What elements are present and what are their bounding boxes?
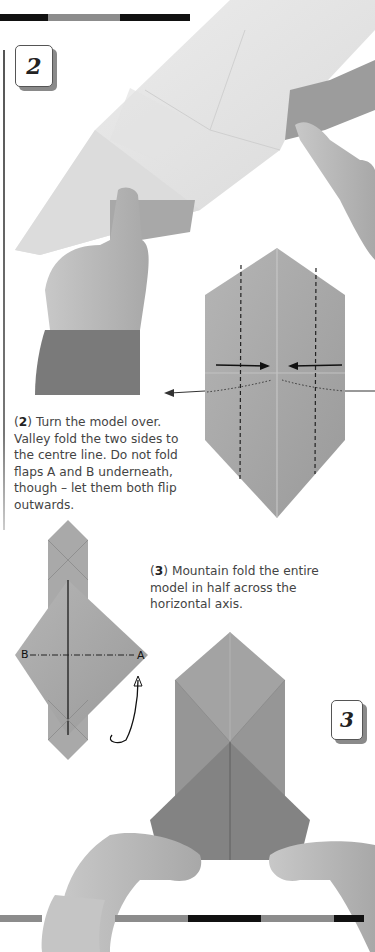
step-3-number: 3 xyxy=(340,708,354,732)
step3-diagram xyxy=(15,520,148,760)
step-2-caption-text: Turn the model over. Valley fold the two… xyxy=(14,415,178,512)
step-2-number: 2 xyxy=(26,53,41,79)
step-3-caption: (3) Mountain fold the entire model in ha… xyxy=(150,563,320,613)
flap-a-label: A xyxy=(137,649,145,662)
step2-photo-paper xyxy=(15,0,375,255)
flap-b-label: B xyxy=(21,648,29,661)
step-2-badge: 2 xyxy=(15,45,53,87)
step-2-caption: (2) Turn the model over. Valley fold the… xyxy=(14,414,199,513)
step-3-caption-number: 3 xyxy=(155,564,163,578)
step-2-caption-number: 2 xyxy=(19,415,27,429)
hand-overlap xyxy=(42,895,105,952)
step-3-badge: 3 xyxy=(331,700,363,740)
step-3-caption-text: Mountain fold the entire model in half a… xyxy=(150,564,319,611)
step2-right-hand xyxy=(295,122,375,260)
